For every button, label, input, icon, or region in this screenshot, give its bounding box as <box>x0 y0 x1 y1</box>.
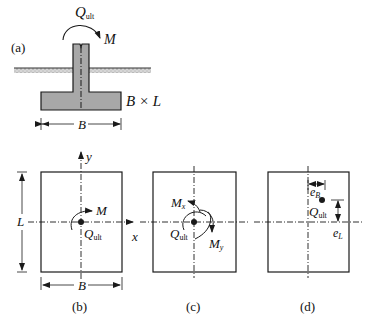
width-label-b: B <box>77 279 87 292</box>
load-point-c <box>191 219 197 225</box>
panel-a-elevation <box>14 25 151 130</box>
load-label-c: Qult <box>170 227 188 242</box>
x-axis-label: x <box>132 230 138 243</box>
ecc-b-label: eB <box>310 186 320 200</box>
panel-c-plan <box>140 166 248 278</box>
panel-d-plan <box>254 166 363 278</box>
ecc-l-label: eL <box>333 227 343 241</box>
load-label-a: Qult <box>75 5 94 21</box>
panel-label-b: (b) <box>72 300 87 313</box>
moment-label-a: M <box>104 33 116 47</box>
moment-y-label: My <box>209 237 223 252</box>
panel-label-a: (a) <box>11 41 25 54</box>
load-label-b: Qult <box>84 227 102 242</box>
footing-size-label: B × L <box>126 94 161 109</box>
moment-label-b: M <box>96 204 107 217</box>
length-label-b: L <box>17 215 24 228</box>
moment-arrow-a <box>63 25 100 40</box>
ground-surface-right <box>89 68 151 73</box>
moment-x-label: Mx <box>171 196 185 211</box>
y-axis-label: y <box>86 150 92 163</box>
width-label-a: B <box>77 118 87 131</box>
panel-label-c: (c) <box>186 300 200 313</box>
panel-label-d: (d) <box>300 300 315 313</box>
footing-diagram <box>0 0 365 331</box>
panel-b-plan <box>17 152 133 290</box>
ground-surface-left <box>14 68 73 73</box>
load-point-b <box>78 219 84 225</box>
load-label-d: Qult <box>309 205 327 220</box>
